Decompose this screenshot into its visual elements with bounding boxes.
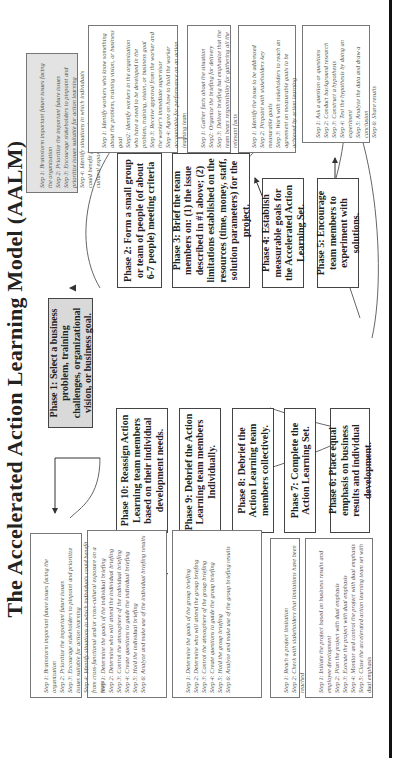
phase-8-label: Phase 8: Debrief the Action Learning tea…: [236, 413, 271, 528]
phase-3-label: Phase 3: Brief the team members on: (1) …: [171, 158, 252, 283]
phase-7-label: Phase 7: Complete the Action Learning Se…: [289, 413, 312, 528]
phase-9-label: Phase 9: Debrief the Action Learning tea…: [183, 413, 218, 531]
phase-7-box: Phase 7: Complete the Action Learning Se…: [284, 408, 316, 533]
phase-9-steps-text: Step 1: Determine the goals of the indiv…: [99, 536, 146, 693]
phase-10-steps-box: Step 1: Brainstorm important future issu…: [30, 533, 82, 698]
phase-9-steps-box: Step 1: Determine the goals of the indiv…: [87, 530, 167, 698]
phase-2-steps-text: Step 1: Identify workers who know someth…: [100, 30, 187, 148]
phase-4-label: Phase 4: Establish measurable goals for …: [260, 183, 306, 283]
phase-6-label: Phase 6: Place equal emphasis on busines…: [327, 413, 373, 528]
phase-8-steps-box: Step 1: Determine the goals of the group…: [172, 530, 262, 698]
phase-10-box: Phase 10: Reassign Action Learning team …: [116, 408, 168, 533]
phase-5-box: Phase 5: Encourage team members to exper…: [317, 178, 359, 288]
phase-6-box: Phase 6: Place equal emphasis on busines…: [330, 408, 370, 533]
phase-10-label: Phase 10: Reassign Action Learning team …: [119, 413, 165, 528]
aalm-diagram: The Accelerated Action Learning Model (A…: [0, 0, 397, 758]
phase-1-label: Phase 1: Select a business problem, trai…: [48, 303, 94, 423]
phase-7-steps-box: Step 1: Reach a project limitation Step …: [270, 538, 300, 698]
phase-4-box: Phase 4: Establish measurable goals for …: [262, 178, 304, 288]
phase-6-steps-box: Step 1: Initiate the project based on bu…: [305, 538, 373, 698]
phase-3-box: Phase 3: Brief the team members on: (1) …: [172, 153, 250, 288]
phase-5-label: Phase 5: Encourage team members to exper…: [315, 183, 361, 283]
phase-8-box: Phase 8: Debrief the Action Learning tea…: [232, 408, 274, 533]
phase-10-steps-text: Step 1: Brainstorm important future issu…: [42, 542, 105, 693]
phase-3-steps-box: Step 1: Gather facts about the situation…: [187, 25, 231, 153]
phase-1-box: Phase 1: Select a business problem, trai…: [48, 298, 93, 428]
phase-1-steps-box: Step 1: Brainstorm important future issu…: [26, 53, 78, 193]
phase-5-steps-text: Step 1: Ask a question or questions Step…: [314, 40, 377, 138]
phase-8-steps-text: Step 1: Determine the goals of the group…: [184, 546, 231, 693]
phase-6-steps-text: Step 1: Initiate the project based on bu…: [317, 544, 372, 693]
phase-4-steps-box: Step 1: Identify the issue to be address…: [238, 25, 296, 153]
phase-4-steps-text: Step 1: Identify the issue to be address…: [250, 40, 297, 148]
phase-5-steps-box: Step 1: Ask a question or questions Step…: [302, 25, 370, 143]
phase-9-box: Phase 9: Debrief the Action Learning tea…: [179, 408, 221, 536]
phase-2-box: Phase 2: Form a small group or team of p…: [117, 153, 162, 288]
phase-2-label: Phase 2: Form a small group or team of p…: [122, 158, 157, 283]
phase-2-steps-box: Step 1: Identify workers who know someth…: [88, 25, 178, 153]
